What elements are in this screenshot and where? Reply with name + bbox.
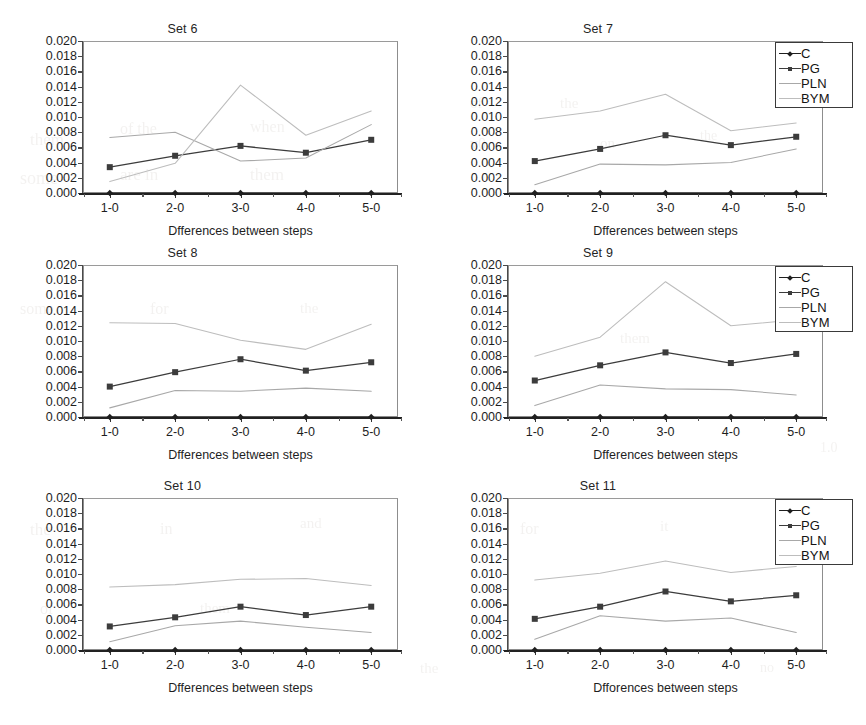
data-point-c [303, 414, 309, 420]
x-axis-caption: Dfferences between steps [168, 681, 312, 695]
legend-swatch-pln-icon [779, 534, 801, 547]
legend-item-c[interactable]: C [779, 46, 847, 61]
chart-panel-set-11: Set 110.0200.0180.0160.0140.0120.0100.00… [430, 465, 866, 725]
data-point-pg [597, 604, 603, 610]
series-layer [430, 0, 833, 203]
data-point-c [368, 647, 374, 653]
data-point-c [597, 190, 603, 196]
series-line-bym [535, 282, 796, 356]
legend-item-pln[interactable]: PLN [779, 76, 847, 91]
data-point-pg [793, 351, 799, 357]
data-point-c [597, 647, 603, 653]
series-line-pg [535, 591, 796, 618]
legend-item-pg[interactable]: PG [779, 518, 847, 533]
data-point-c [793, 414, 799, 420]
legend-item-c[interactable]: C [779, 270, 847, 285]
x-axis-caption: Dfferences between steps [168, 448, 312, 462]
series-layer [0, 235, 408, 427]
data-point-pg [172, 369, 178, 375]
data-point-pg [368, 604, 374, 610]
legend-swatch-pg-icon [779, 62, 801, 75]
data-point-c [172, 190, 178, 196]
data-point-pg [532, 158, 538, 164]
legend-label: PG [801, 519, 820, 532]
x-tick-label: 3-0 [656, 201, 674, 215]
x-tick-label: 2-0 [166, 425, 184, 439]
data-point-pg [597, 146, 603, 152]
legend-item-pln[interactable]: PLN [779, 300, 847, 315]
legend-swatch-pg-icon [779, 286, 801, 299]
x-tick-label: 4-0 [297, 658, 315, 672]
x-tick-label: 3-0 [656, 658, 674, 672]
data-point-c [107, 190, 113, 196]
legend-label: PLN [801, 77, 827, 90]
x-tick-label: 1-0 [526, 425, 544, 439]
x-tick-label: 5-0 [787, 201, 805, 215]
data-point-pg [303, 612, 309, 618]
data-point-pg [663, 349, 669, 355]
legend-swatch-c-icon [779, 47, 801, 60]
legend-label: PLN [801, 534, 827, 547]
legend-item-pg[interactable]: PG [779, 285, 847, 300]
data-point-pg [728, 142, 734, 148]
x-axis-tick-labels: 1-02-03-04-05-0 [0, 658, 430, 674]
legend-label: PLN [801, 301, 827, 314]
x-axis-tick-labels: 1-02-03-04-05-0 [0, 425, 430, 441]
legend-item-c[interactable]: C [779, 503, 847, 518]
legend-swatch-bym-icon [779, 549, 801, 562]
data-point-c [662, 190, 668, 196]
x-tick-label: 3-0 [656, 425, 674, 439]
series-line-bym [110, 579, 371, 587]
legend-swatch-pln-icon [779, 77, 801, 90]
x-tick-label: 2-0 [591, 201, 609, 215]
x-tick-label: 3-0 [231, 201, 249, 215]
legend-swatch-bym-icon [779, 316, 801, 329]
legend: CPGPLNBYM [775, 42, 853, 108]
data-point-c [662, 647, 668, 653]
series-line-pln [110, 125, 371, 161]
legend-label: C [801, 47, 811, 60]
x-axis-tick-labels: 1-02-03-04-05-0 [430, 658, 866, 674]
data-point-c [368, 190, 374, 196]
legend: CPGPLNBYM [775, 266, 853, 332]
legend-item-bym[interactable]: BYM [779, 548, 847, 563]
data-point-c [237, 647, 243, 653]
data-point-c [662, 414, 668, 420]
legend-item-pln[interactable]: PLN [779, 533, 847, 548]
data-point-pg [728, 360, 734, 366]
data-point-pg [663, 588, 669, 594]
legend-label: BYM [801, 316, 830, 329]
legend-item-bym[interactable]: BYM [779, 91, 847, 106]
data-point-c [793, 190, 799, 196]
data-point-pg [532, 616, 538, 622]
series-line-pln [110, 621, 371, 642]
data-point-pg [532, 378, 538, 384]
data-point-c [237, 190, 243, 196]
data-point-pg [107, 164, 113, 170]
data-point-pg [172, 614, 178, 620]
x-tick-label: 5-0 [787, 425, 805, 439]
x-tick-label: 5-0 [362, 425, 380, 439]
data-point-c [532, 190, 538, 196]
x-axis-tick-labels: 1-02-03-04-05-0 [430, 201, 866, 217]
x-tick-label: 3-0 [231, 658, 249, 672]
series-line-pln [535, 616, 796, 640]
legend: CPGPLNBYM [775, 499, 853, 565]
series-layer [430, 465, 833, 660]
legend-swatch-pln-icon [779, 301, 801, 314]
x-tick-label: 4-0 [722, 658, 740, 672]
series-line-pln [110, 388, 371, 408]
data-point-c [728, 414, 734, 420]
x-tick-label: 2-0 [591, 658, 609, 672]
series-line-bym [535, 561, 796, 580]
legend-swatch-c-icon [779, 271, 801, 284]
series-line-pln [535, 385, 796, 406]
x-tick-label: 1-0 [101, 425, 119, 439]
legend-item-bym[interactable]: BYM [779, 315, 847, 330]
figure-panel-grid: Set 60.0200.0180.0160.0140.0120.0100.008… [0, 0, 866, 725]
x-tick-label: 1-0 [526, 201, 544, 215]
x-axis-tick-labels: 1-02-03-04-05-0 [0, 201, 430, 217]
x-tick-label: 4-0 [297, 201, 315, 215]
data-point-pg [107, 623, 113, 629]
legend-item-pg[interactable]: PG [779, 61, 847, 76]
